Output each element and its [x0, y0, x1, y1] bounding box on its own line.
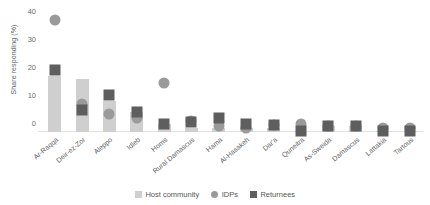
x-axis-tick-label: Dar'a [261, 136, 278, 152]
x-axis-tick-label: Quneitra [280, 136, 305, 159]
legend-item-label: Host community [145, 190, 199, 199]
chart-group: Deir-ez-Zor [76, 14, 89, 132]
chart-legend: Host communityIDPsReturnees [0, 190, 430, 199]
marker-returnees [77, 104, 88, 115]
marker-returnees [323, 121, 334, 132]
marker-returnees [405, 126, 416, 137]
marker-returnees [241, 118, 252, 129]
chart-group: Damascus [349, 14, 362, 132]
chart-group: Lattakia [376, 14, 389, 132]
legend-item[interactable]: Returnees [250, 190, 295, 199]
marker-returnees [350, 121, 361, 132]
marker-idps [49, 14, 60, 25]
marker-returnees [213, 112, 224, 123]
chart-group: Ar-Raqqa [48, 14, 61, 132]
chart-group: Idleb [130, 14, 143, 132]
chart-group: Al-Hasakeh [240, 14, 253, 132]
bar-host-community [185, 128, 198, 132]
marker-returnees [104, 90, 115, 101]
bar-host-community [48, 76, 61, 132]
chart-group: Quneitra [294, 14, 307, 132]
x-axis-tick-label: Damascus [330, 136, 360, 163]
marker-returnees [268, 119, 279, 130]
plot-area: 010203040 Ar-RaqqaDeir-ez-ZorAleppoIdleb… [41, 14, 424, 132]
chart-group: Homs [158, 14, 171, 132]
x-axis-tick-label: Tartous [393, 136, 415, 156]
legend-swatch-circle-icon [211, 191, 218, 198]
y-axis-title: Share responding (%) [10, 0, 17, 120]
legend-item-label: IDPs [222, 190, 238, 199]
chart-group: Hama [212, 14, 225, 132]
chart-group: As-Sweida [322, 14, 335, 132]
legend-item-label: Returnees [260, 190, 295, 199]
chart-group: Aleppo [103, 14, 116, 132]
x-axis-tick-label: Hama [204, 136, 223, 153]
chart-group: Rural Damascus [185, 14, 198, 132]
legend-swatch-square-icon [250, 191, 257, 198]
legend-item[interactable]: Host community [135, 190, 199, 199]
y-axis-tick-label: 0 [32, 119, 36, 128]
x-axis-tick-label: Homs [150, 136, 169, 153]
y-axis-tick-label: 40 [28, 6, 36, 15]
chart-group: Tartous [404, 14, 417, 132]
marker-returnees [295, 125, 306, 136]
legend-item[interactable]: IDPs [211, 190, 238, 199]
marker-returnees [49, 65, 60, 76]
legend-swatch-square-icon [135, 191, 142, 198]
y-axis-tick-label: 10 [28, 90, 36, 99]
x-axis-tick-label: Aleppo [93, 136, 114, 155]
x-axis-tick-label: Lattakia [364, 136, 387, 157]
y-axis-tick-label: 20 [28, 62, 36, 71]
x-axis-tick-label: Idleb [125, 136, 141, 151]
marker-idps [104, 108, 115, 119]
marker-idps [159, 77, 170, 88]
x-axis-tick-label: Deir-ez-Zor [55, 136, 87, 164]
x-axis-baseline [38, 131, 424, 132]
chart-group: Dar'a [267, 14, 280, 132]
marker-returnees [159, 118, 170, 129]
marker-returnees [131, 107, 142, 118]
chart-figure: Share responding (%) 010203040 Ar-RaqqaD… [0, 0, 430, 205]
marker-returnees [186, 117, 197, 128]
y-axis-tick-label: 30 [28, 34, 36, 43]
x-axis-tick-label: As-Sweida [303, 136, 333, 163]
